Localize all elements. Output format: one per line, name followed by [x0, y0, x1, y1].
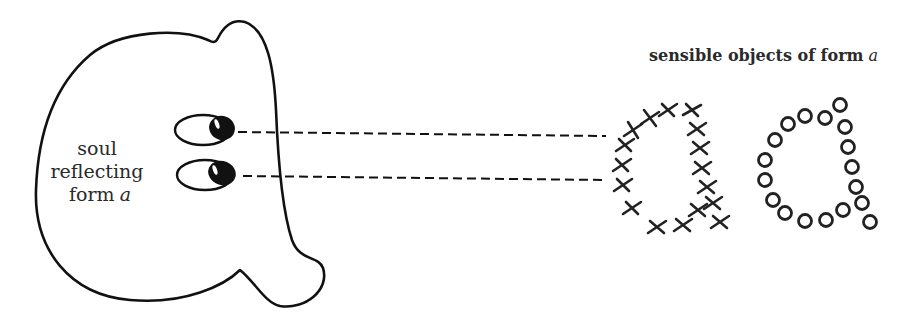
lower-eye-icon: [177, 157, 239, 190]
objects-title: sensible objects of forma: [649, 46, 878, 65]
soul-label: soul reflecting forma: [50, 137, 149, 205]
lower-dashed-line: [243, 176, 606, 180]
soul-form-letter: a: [120, 183, 131, 205]
cross-letter-a: [613, 104, 729, 233]
soul-form-diagram: soul reflecting forma sensible objects o…: [0, 0, 909, 323]
soul-form-word: form: [69, 183, 115, 205]
circle-letter-a: [759, 99, 877, 229]
upper-eye-icon: [175, 112, 238, 145]
upper-dashed-line: [238, 132, 606, 136]
